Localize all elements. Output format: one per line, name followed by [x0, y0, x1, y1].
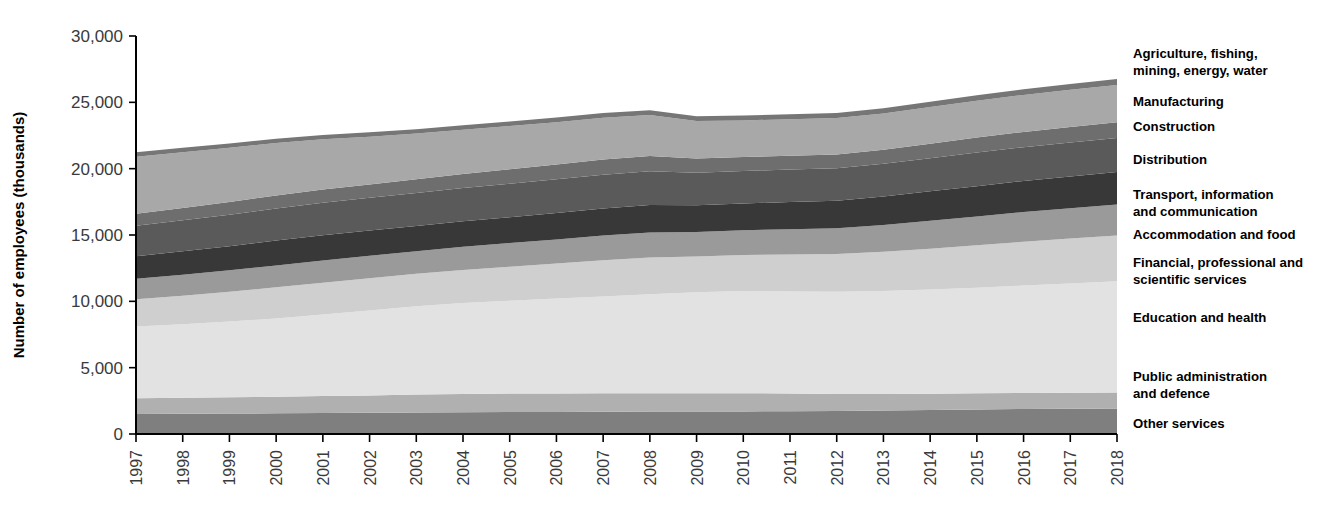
x-tick-label: 2001: [315, 450, 332, 486]
x-tick-label: 2013: [875, 450, 892, 486]
y-axis-ticks-group: 05,00010,00015,00020,00025,00030,000: [71, 27, 136, 444]
y-axis-title: Number of employees (thousands): [10, 112, 27, 359]
legend-label: Agriculture, fishing,: [1133, 46, 1258, 61]
legend-label-line2: mining, energy, water: [1133, 63, 1268, 78]
x-tick-label: 2000: [268, 450, 285, 486]
x-tick-label: 1997: [128, 450, 145, 486]
legend-label-line2: and defence: [1133, 386, 1210, 401]
x-tick-label: 1999: [221, 450, 238, 486]
legend-label: Accommodation and food: [1133, 227, 1296, 242]
legend-label: Construction: [1133, 119, 1215, 134]
legend-label: Financial, professional and: [1133, 255, 1303, 270]
legend-label: Transport, information: [1133, 187, 1274, 202]
y-axis-title-group: Number of employees (thousands): [10, 112, 27, 359]
x-tick-label: 2015: [969, 450, 986, 486]
stacked-area-chart: 05,00010,00015,00020,00025,00030,000 199…: [0, 0, 1342, 519]
x-tick-label: 2011: [782, 450, 799, 485]
y-tick-label: 20,000: [71, 160, 123, 179]
x-tick-label: 2004: [455, 450, 472, 486]
x-tick-label: 2009: [689, 450, 706, 486]
y-tick-label: 10,000: [71, 292, 123, 311]
legend-group: Agriculture, fishing,mining, energy, wat…: [1133, 46, 1303, 431]
x-tick-label: 2014: [922, 450, 939, 486]
x-tick-label: 1998: [175, 450, 192, 486]
legend-label: Manufacturing: [1133, 94, 1224, 109]
y-tick-label: 5,000: [80, 359, 123, 378]
y-tick-label: 30,000: [71, 27, 123, 46]
x-tick-label: 2002: [362, 450, 379, 486]
legend-label: Other services: [1133, 416, 1225, 431]
x-tick-label: 2007: [595, 450, 612, 486]
x-tick-label: 2018: [1109, 450, 1126, 486]
x-axis-ticks-group: 1997199819992000200120022003200420052006…: [128, 434, 1126, 486]
area-bands-group: [136, 79, 1117, 434]
x-tick-label: 2005: [502, 450, 519, 486]
x-tick-label: 2008: [642, 450, 659, 486]
legend-label-line2: and communication: [1133, 204, 1258, 219]
legend-label: Public administration: [1133, 369, 1267, 384]
y-tick-label: 0: [114, 425, 123, 444]
legend-label-line2: scientific services: [1133, 272, 1247, 287]
y-tick-label: 15,000: [71, 226, 123, 245]
legend-label: Distribution: [1133, 152, 1207, 167]
x-tick-label: 2012: [829, 450, 846, 486]
x-tick-label: 2006: [548, 450, 565, 486]
legend-label: Education and health: [1133, 310, 1266, 325]
x-tick-label: 2017: [1062, 450, 1079, 486]
x-tick-label: 2016: [1016, 450, 1033, 486]
x-tick-label: 2003: [408, 450, 425, 486]
y-tick-label: 25,000: [71, 93, 123, 112]
x-tick-label: 2010: [735, 450, 752, 486]
chart-canvas: 05,00010,00015,00020,00025,00030,000 199…: [0, 0, 1342, 519]
